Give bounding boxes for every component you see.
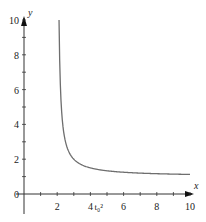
ticks: 2468100246810 [9, 15, 195, 212]
y-tick-label: 2 [14, 154, 19, 165]
axes [16, 16, 194, 214]
data-curve [59, 20, 190, 174]
x-tick-label: 6 [121, 201, 126, 212]
y-tick-label: 8 [14, 50, 19, 61]
chart-plot: 2468100246810 x y t₀² [0, 0, 206, 222]
y-tick-label: 4 [14, 119, 19, 130]
y-axis-label: y [27, 7, 33, 18]
x-axis-label: x [193, 180, 199, 191]
x-tick-label: 10 [185, 201, 195, 212]
y-tick-label: 10 [9, 15, 19, 26]
x-tick-label: 8 [154, 201, 159, 212]
y-tick-label: 6 [14, 85, 19, 96]
y-tick-label: 0 [14, 189, 19, 200]
t0-squared-annotation: t₀² [95, 202, 104, 212]
x-tick-label: 2 [55, 201, 60, 212]
x-tick-label: 4 [88, 201, 93, 212]
